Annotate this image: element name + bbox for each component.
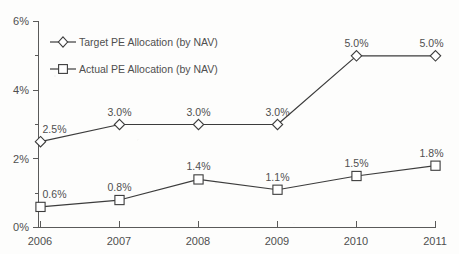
series-target-labels: 2.5%3.0%3.0%3.0%5.0%5.0% — [43, 37, 444, 135]
series-target: 2.5%3.0%3.0%3.0%5.0%5.0% — [35, 37, 443, 147]
legend-item-actual[interactable]: Actual PE Allocation (by NAV) — [50, 63, 218, 75]
legend-label-target: Target PE Allocation (by NAV) — [79, 36, 218, 48]
data-point-label: 1.1% — [266, 171, 290, 183]
data-point-label: 5.0% — [345, 37, 369, 49]
data-point-label: 1.5% — [345, 157, 369, 169]
chart-svg: Target versus Actual Private Equity Allo… — [0, 0, 459, 254]
data-point-label: 0.6% — [43, 188, 67, 200]
square-marker-icon — [115, 195, 124, 204]
y-axis: 0% 2% 4% 6% — [13, 15, 38, 233]
square-marker-icon — [194, 175, 203, 184]
data-point-label: 3.0% — [108, 106, 132, 118]
x-tick-label-2008: 2008 — [186, 235, 210, 247]
x-tick-label-2007: 2007 — [107, 235, 131, 247]
square-marker-icon — [36, 202, 45, 211]
series-actual: 0.6%0.8%1.4%1.1%1.5%1.8% — [36, 147, 444, 212]
data-point-label: 3.0% — [187, 106, 211, 118]
legend-item-target[interactable]: Target PE Allocation (by NAV) — [50, 36, 218, 48]
data-point-label: 2.5% — [43, 123, 67, 135]
diamond-marker-icon — [58, 37, 67, 47]
x-axis: 2006 2007 2008 2009 2010 2011 — [28, 221, 447, 247]
line-chart: Target versus Actual Private Equity Allo… — [0, 0, 459, 254]
series-actual-line — [41, 166, 436, 207]
square-marker-icon — [352, 171, 361, 180]
data-point-label: 5.0% — [420, 37, 444, 49]
square-marker-icon — [59, 65, 68, 74]
y-tick-label-1: 2% — [13, 153, 29, 165]
data-point-label: 1.8% — [420, 147, 444, 159]
series-actual-markers — [36, 161, 440, 211]
x-tick-label-2009: 2009 — [265, 235, 289, 247]
diamond-marker-icon — [114, 119, 124, 129]
y-tick-label-2: 4% — [13, 84, 29, 96]
data-point-label: 1.4% — [187, 160, 211, 172]
x-tick-label-2011: 2011 — [423, 235, 447, 247]
series-actual-labels: 0.6%0.8%1.4%1.1%1.5%1.8% — [43, 147, 444, 200]
x-tick-label-2010: 2010 — [344, 235, 368, 247]
y-tick-label-3: 6% — [13, 15, 29, 27]
diamond-marker-icon — [430, 51, 440, 61]
y-tick-label-0: 0% — [13, 221, 29, 233]
legend-label-actual: Actual PE Allocation (by NAV) — [79, 63, 218, 75]
legend: Target PE Allocation (by NAV) Actual PE … — [50, 36, 218, 75]
square-marker-icon — [431, 161, 440, 170]
data-point-label: 0.8% — [108, 181, 132, 193]
diamond-marker-icon — [35, 136, 45, 146]
x-tick-label-2006: 2006 — [28, 235, 52, 247]
data-point-label: 3.0% — [266, 106, 290, 118]
diamond-marker-icon — [193, 119, 203, 129]
square-marker-icon — [273, 185, 282, 194]
